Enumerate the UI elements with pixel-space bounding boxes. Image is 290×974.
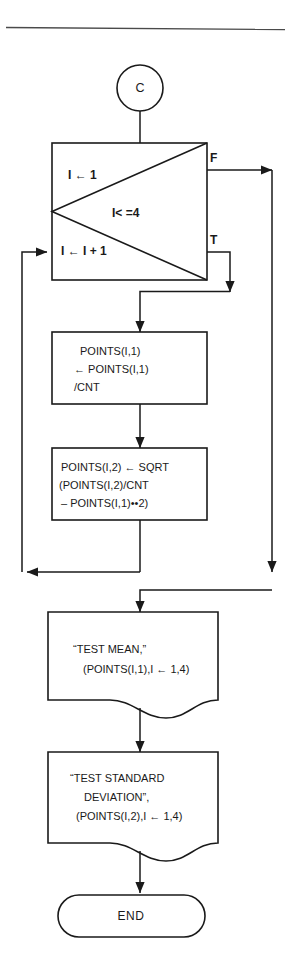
- process-stddev-line-3: – POINTS(I,1)••2): [61, 497, 148, 509]
- merge-to-output-line: [140, 590, 272, 612]
- process-stddev-line-1: POINTS(I,2) ← SQRT: [61, 461, 169, 473]
- output-mean-line-2: (POINTS(I,1),I ← 1,4): [83, 663, 189, 675]
- process-mean-line-2: ← POINTS(I,1): [74, 363, 149, 375]
- true-branch-to-process-line: [140, 292, 230, 333]
- loop-init-label: I ← 1: [68, 168, 97, 182]
- process-stddev-line-2: (POINTS(I,2)/CNT: [59, 479, 149, 491]
- connector-label: C: [135, 81, 144, 95]
- flowchart-canvas: C I ← 1 I< =4 I ← I + 1 F T POINTS(I,1) …: [0, 0, 290, 974]
- loop-back-rail: [22, 252, 47, 572]
- process-mean-line-3: /CNT: [74, 381, 100, 393]
- output-stddev-document-shape: [48, 752, 218, 861]
- output-stddev-line-2: DEVIATION”,: [84, 791, 149, 803]
- loop-increment-label: I ← I + 1: [61, 244, 107, 258]
- output-stddev-line-3: (POINTS(I,2),I ← 1,4): [76, 810, 182, 822]
- flowchart-page: C I ← 1 I< =4 I ← I + 1 F T POINTS(I,1) …: [0, 0, 290, 974]
- page-top-rule: [6, 28, 285, 30]
- loop-condition-label: I< =4: [112, 206, 140, 220]
- output-stddev-line-1: “TEST STANDARD: [70, 772, 164, 784]
- true-branch-line: [207, 252, 230, 278]
- terminal-end-label: END: [117, 909, 144, 923]
- false-branch-label: F: [210, 151, 217, 165]
- process-mean-line-1: POINTS(I,1): [80, 345, 141, 357]
- true-branch-label: T: [210, 233, 218, 247]
- output-mean-line-1: “TEST MEAN,”: [73, 643, 146, 655]
